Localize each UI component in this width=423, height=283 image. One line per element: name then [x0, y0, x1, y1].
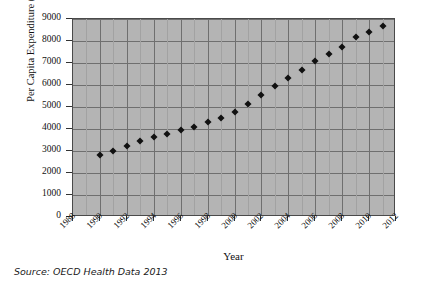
gridline-horizontal [73, 19, 394, 20]
data-point [110, 147, 117, 154]
gridline-horizontal [73, 41, 394, 42]
plot-area [72, 18, 395, 216]
y-axis-tick-label: 8000 [42, 35, 61, 45]
y-axis-tick [66, 172, 72, 173]
y-axis-tick [66, 150, 72, 151]
y-axis-tick [66, 62, 72, 63]
data-point [352, 33, 359, 40]
data-point [96, 152, 103, 159]
gridline-horizontal [73, 85, 394, 86]
y-axis-tick [66, 84, 72, 85]
data-point [379, 22, 386, 29]
gridline-horizontal [73, 107, 394, 108]
gridline-vertical-minor [86, 19, 87, 215]
gridline-vertical-minor [248, 19, 249, 215]
gridline-vertical-minor [356, 19, 357, 215]
data-point [258, 91, 265, 98]
gridline-vertical [100, 19, 101, 215]
x-axis-title: Year [72, 250, 395, 262]
gridline-vertical-minor [302, 19, 303, 215]
data-point [339, 44, 346, 51]
data-point [325, 50, 332, 57]
gridline-vertical [261, 19, 262, 215]
gridline-vertical [369, 19, 370, 215]
chart-figure: Per Capita Expenditure ($) Year Source: … [0, 0, 423, 283]
gridline-vertical [235, 19, 236, 215]
data-point [204, 119, 211, 126]
y-axis-tick-label: 2000 [42, 167, 61, 177]
gridline-horizontal [73, 129, 394, 130]
gridline-horizontal [73, 173, 394, 174]
data-point [217, 114, 224, 121]
gridline-vertical [154, 19, 155, 215]
gridline-vertical-minor [167, 19, 168, 215]
gridline-vertical [315, 19, 316, 215]
gridline-vertical-minor [383, 19, 384, 215]
y-axis-tick-label: 5000 [42, 101, 61, 111]
data-point [150, 134, 157, 141]
data-point [285, 75, 292, 82]
data-point [366, 28, 373, 35]
y-axis-tick-label: 7000 [42, 57, 61, 67]
y-axis-tick [66, 40, 72, 41]
gridline-vertical [127, 19, 128, 215]
y-axis-title: Per Capita Expenditure ($) [25, 0, 36, 136]
gridline-vertical-minor [275, 19, 276, 215]
y-axis-tick-label: 1000 [42, 189, 61, 199]
data-point [271, 82, 278, 89]
data-point [231, 108, 238, 115]
data-point [164, 130, 171, 137]
y-axis-tick [66, 18, 72, 19]
gridline-horizontal [73, 63, 394, 64]
y-axis-tick-label: 4000 [42, 123, 61, 133]
y-axis-tick-label: 6000 [42, 79, 61, 89]
gridline-vertical-minor [194, 19, 195, 215]
gridline-horizontal [73, 195, 394, 196]
y-axis-tick-label: 9000 [42, 13, 61, 23]
data-point [298, 67, 305, 74]
gridline-vertical [208, 19, 209, 215]
gridline-vertical-minor [329, 19, 330, 215]
gridline-vertical [288, 19, 289, 215]
gridline-vertical [181, 19, 182, 215]
y-axis-tick-label: 3000 [42, 145, 61, 155]
gridline-vertical-minor [140, 19, 141, 215]
data-point [123, 142, 130, 149]
data-point [177, 126, 184, 133]
data-point [137, 138, 144, 145]
y-axis-tick [66, 194, 72, 195]
y-axis-tick [66, 106, 72, 107]
gridline-vertical-minor [113, 19, 114, 215]
source-caption: Source: OECD Health Data 2013 [14, 266, 168, 277]
y-axis-tick [66, 128, 72, 129]
gridline-horizontal [73, 151, 394, 152]
